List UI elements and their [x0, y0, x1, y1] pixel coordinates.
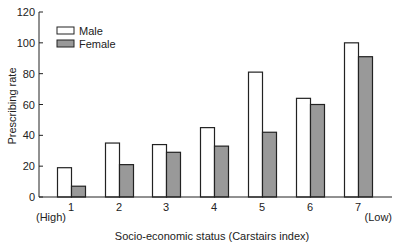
bar-male-6 [297, 98, 311, 197]
bar-female-2 [120, 165, 134, 197]
bar-female-4 [215, 146, 229, 197]
y-tick-label: 60 [23, 99, 35, 111]
bar-female-3 [167, 152, 181, 197]
x-axis-label: Socio-economic status (Carstairs index) [115, 230, 309, 242]
bar-male-5 [249, 72, 263, 197]
bar-female-1 [72, 186, 86, 197]
legend: MaleFemale [57, 25, 116, 50]
x-tick-label: 7 [355, 201, 361, 213]
bar-male-4 [201, 128, 215, 197]
y-tick-label: 80 [23, 68, 35, 80]
y-tick-label: 100 [17, 37, 35, 49]
y-tick-label: 0 [29, 191, 35, 203]
legend-label-female: Female [79, 38, 116, 50]
legend-swatch-female [57, 40, 74, 47]
bar-male-1 [58, 168, 72, 197]
y-tick-label: 120 [17, 6, 35, 18]
bar-female-5 [263, 132, 277, 197]
x-tick-label: 4 [211, 201, 217, 213]
x-axis: 1234567 [39, 197, 392, 213]
x-tick-label: 2 [116, 201, 122, 213]
legend-swatch-male [57, 27, 74, 34]
y-axis: 020406080100120 [17, 6, 43, 203]
x-tick-label: 5 [259, 201, 265, 213]
bar-female-6 [311, 105, 325, 198]
bar-male-2 [106, 143, 120, 197]
x-tick-label: 3 [163, 201, 169, 213]
bar-chart: 020406080100120 1234567 MaleFemale Presc… [0, 0, 400, 245]
y-tick-label: 40 [23, 129, 35, 141]
x-tick-label: 6 [307, 201, 313, 213]
x-axis-high-label: (High) [36, 211, 66, 223]
bar-male-7 [345, 43, 359, 197]
y-tick-label: 20 [23, 160, 35, 172]
x-axis-low-label: (Low) [364, 211, 392, 223]
bar-male-3 [153, 145, 167, 197]
y-axis-label: Prescribing rate [6, 67, 18, 144]
legend-label-male: Male [79, 25, 103, 37]
bar-female-7 [359, 57, 373, 197]
bars [58, 43, 373, 197]
x-tick-label: 1 [68, 201, 74, 213]
